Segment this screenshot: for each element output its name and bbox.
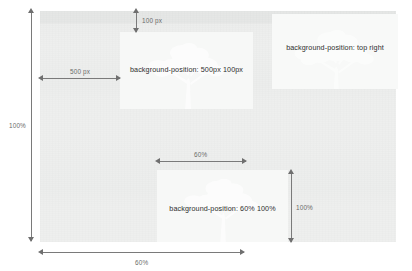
measure-line bbox=[158, 161, 246, 162]
arrow-head-right-icon bbox=[242, 158, 247, 164]
measure-line bbox=[31, 11, 32, 241]
arrow-head-left-icon bbox=[38, 249, 43, 255]
position-box-label: background-position: 60% 100% bbox=[157, 204, 288, 213]
measure-line bbox=[41, 252, 244, 253]
measure-label: 100% bbox=[9, 122, 26, 129]
arrow-head-up-icon bbox=[288, 169, 294, 174]
arrow-head-down-icon bbox=[133, 28, 139, 33]
diagram-canvas: background-position: 500px 100px bac bbox=[0, 0, 412, 271]
measure-label: 60% bbox=[135, 259, 148, 266]
tree-silhouette-icon bbox=[284, 22, 388, 89]
position-box-top-right: background-position: top right bbox=[272, 14, 398, 89]
arrow-head-right-icon bbox=[240, 249, 245, 255]
measure-line bbox=[41, 78, 120, 79]
arrow-head-down-icon bbox=[288, 238, 294, 243]
arrow-head-left-icon bbox=[155, 158, 160, 164]
position-box-500px-100px: background-position: 500px 100px bbox=[120, 32, 253, 109]
arrow-head-left-icon bbox=[38, 75, 43, 81]
measure-label: 100 px bbox=[142, 17, 162, 24]
arrow-head-up-icon bbox=[133, 8, 139, 13]
position-box-60pct-100pct: background-position: 60% 100% bbox=[157, 170, 288, 242]
measure-label: 100% bbox=[296, 204, 313, 211]
arrow-head-down-icon bbox=[28, 237, 34, 242]
measure-line bbox=[291, 172, 292, 242]
measure-label: 60% bbox=[194, 151, 207, 158]
position-box-label: background-position: 500px 100px bbox=[120, 65, 253, 74]
measure-label: 500 px bbox=[70, 68, 90, 75]
position-box-label: background-position: top right bbox=[272, 43, 398, 52]
arrow-head-right-icon bbox=[116, 75, 121, 81]
arrow-head-up-icon bbox=[28, 8, 34, 13]
